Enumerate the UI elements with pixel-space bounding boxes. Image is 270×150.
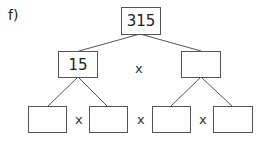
multiply-sign-level1: x (135, 62, 143, 75)
root-box[interactable]: 315 (121, 7, 161, 35)
branch-left-right (78, 77, 107, 106)
level1-left-value: 15 (68, 56, 87, 74)
branch-right-left (171, 77, 201, 106)
level2-box-4[interactable] (213, 106, 253, 133)
branch-left-left (48, 77, 78, 106)
multiply-sign-level2-3: x (199, 113, 207, 126)
level1-right-box[interactable] (181, 51, 221, 78)
level1-left-box[interactable]: 15 (58, 51, 98, 78)
branch-root-left (79, 34, 140, 51)
level2-box-3[interactable] (152, 106, 191, 133)
level2-box-1[interactable] (28, 106, 67, 133)
multiply-sign-level2-1: x (75, 113, 83, 126)
branch-right-right (201, 77, 232, 106)
root-value: 315 (127, 12, 156, 30)
branch-root-right (140, 34, 201, 51)
level2-box-2[interactable] (89, 106, 128, 133)
multiply-sign-level2-2: x (137, 113, 145, 126)
